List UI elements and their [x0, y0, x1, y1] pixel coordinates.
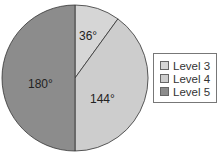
- legend-item-level-3: Level 3: [160, 59, 216, 72]
- label-level-3: 36°: [79, 29, 97, 43]
- swatch-level-4: [160, 74, 169, 83]
- swatch-level-3: [160, 61, 169, 70]
- legend-label: Level 4: [173, 73, 210, 85]
- legend-label: Level 5: [173, 86, 210, 98]
- label-level-4: 144°: [90, 92, 115, 106]
- legend: Level 3 Level 4 Level 5: [153, 53, 217, 103]
- label-level-5: 180°: [28, 77, 53, 91]
- legend-item-level-5: Level 5: [160, 85, 216, 98]
- swatch-level-5: [160, 87, 169, 96]
- legend-item-level-4: Level 4: [160, 72, 216, 85]
- legend-label: Level 3: [173, 60, 210, 72]
